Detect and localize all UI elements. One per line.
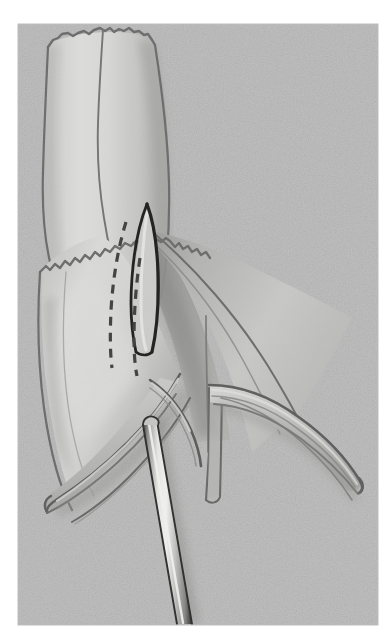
figure-root: Surgical illustration: longitudinal veno…: [0, 0, 392, 644]
plate-softening-wash: [18, 24, 378, 625]
surgical-illustration-canvas: Surgical illustration: longitudinal veno…: [0, 0, 392, 644]
